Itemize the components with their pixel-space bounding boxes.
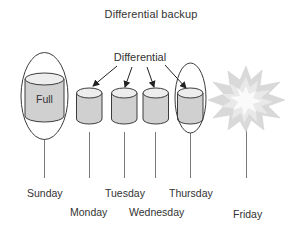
- database-cylinder-icon: [112, 88, 138, 124]
- arrow-icon: [93, 66, 117, 86]
- arrow-icon: [147, 67, 154, 87]
- database-cylinder-icon: [178, 88, 204, 124]
- day-label-friday: Friday: [233, 208, 262, 220]
- day-label-tuesday: Tuesday: [105, 187, 145, 199]
- day-label-monday: Monday: [70, 206, 107, 218]
- explosion-starburst-icon: [208, 66, 285, 132]
- timeline-lines: [45, 128, 247, 178]
- differential-label: Differential: [114, 51, 166, 63]
- database-cylinder-icon: [143, 88, 169, 124]
- day-label-wednesday: Wednesday: [129, 206, 184, 218]
- day-label-thursday: Thursday: [169, 187, 213, 199]
- differential-arrows: [93, 65, 186, 88]
- backup-diagram: Full Differential: [0, 0, 302, 236]
- arrow-icon: [165, 65, 186, 88]
- full-backup-label: Full: [36, 93, 53, 105]
- database-cylinder-icon: [77, 88, 103, 124]
- day-label-sunday: Sunday: [27, 187, 63, 199]
- arrow-icon: [125, 67, 132, 87]
